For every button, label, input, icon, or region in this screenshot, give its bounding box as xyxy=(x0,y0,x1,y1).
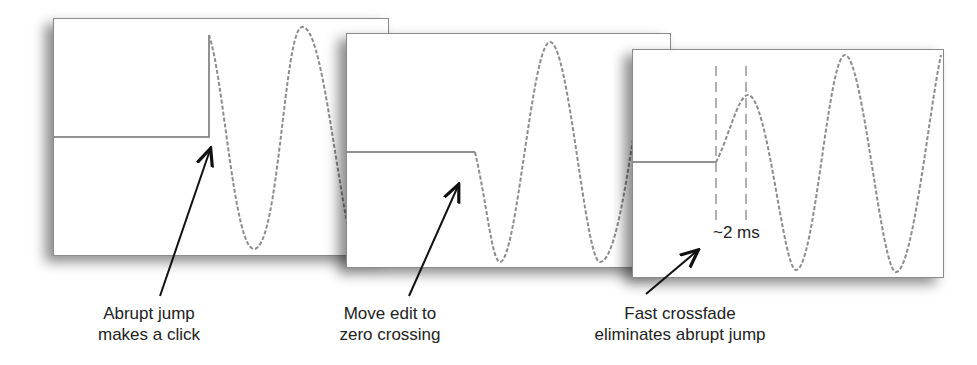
duration-annotation: ~2 ms xyxy=(713,223,760,243)
panel-abrupt-jump xyxy=(53,18,389,256)
waveform-zero-crossing xyxy=(347,34,670,267)
caption-zero-crossing: Move edit to zero crossing xyxy=(300,303,480,345)
panel-zero-crossing xyxy=(346,33,671,268)
waveform-crossfade xyxy=(633,50,943,277)
panel-crossfade: ~2 ms xyxy=(632,49,944,278)
caption-crossfade: Fast crossfade eliminates abrupt jump xyxy=(560,303,800,345)
waveform-abrupt xyxy=(54,19,388,255)
caption-abrupt: Abrupt jump makes a click xyxy=(64,303,234,345)
